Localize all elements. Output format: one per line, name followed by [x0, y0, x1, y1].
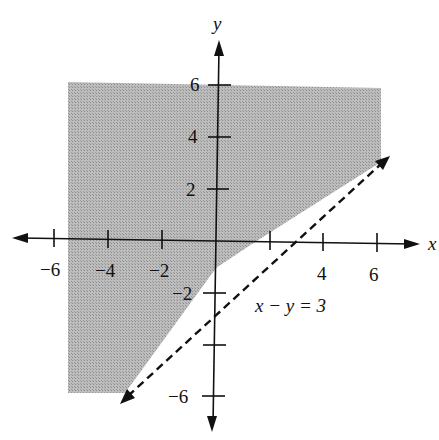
x-tick-label: −4 — [95, 260, 116, 281]
y-tick-label: 2 — [186, 179, 196, 200]
x-tick-label: 6 — [369, 264, 379, 285]
shaded-region — [68, 82, 381, 393]
y-tick-label: 6 — [190, 74, 200, 95]
x-axis-label: x — [427, 233, 437, 254]
graph: y x −6 −4 −2 4 6 6 4 2 −2 −6 x − y = 3 — [0, 0, 439, 440]
y-tick-label: 4 — [188, 126, 198, 147]
x-tick-label: −6 — [40, 259, 60, 280]
y-axis-label: y — [211, 13, 222, 34]
y-tick-label: −6 — [168, 386, 188, 407]
equation-label: x − y = 3 — [254, 295, 326, 316]
x-tick-label: 4 — [317, 263, 327, 284]
y-tick-label: −2 — [172, 283, 192, 304]
x-tick-label: −2 — [149, 260, 169, 281]
